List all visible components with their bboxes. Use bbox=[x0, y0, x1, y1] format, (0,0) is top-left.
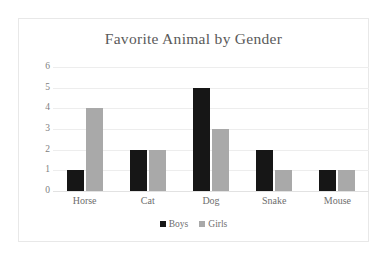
legend-label: Girls bbox=[208, 219, 227, 229]
x-tick-label-mouse: Mouse bbox=[306, 195, 369, 206]
y-tick-label: 5 bbox=[45, 83, 50, 93]
bar-group bbox=[116, 67, 179, 191]
x-axis-labels: HorseCatDogSnakeMouse bbox=[53, 195, 369, 206]
bar-girls-snake[interactable] bbox=[275, 170, 292, 191]
bar-girls-cat[interactable] bbox=[149, 150, 166, 191]
y-tick-label: 3 bbox=[45, 124, 50, 134]
bar-group bbox=[179, 67, 242, 191]
legend-label: Boys bbox=[169, 219, 189, 229]
y-axis: 0123456 bbox=[36, 67, 53, 191]
chart-frame: Favorite Animal by Gender 0123456 HorseC… bbox=[18, 18, 369, 242]
y-tick-label: 6 bbox=[45, 62, 50, 72]
x-tick-label-dog: Dog bbox=[179, 195, 242, 206]
x-tick-label-snake: Snake bbox=[243, 195, 306, 206]
bar-boys-dog[interactable] bbox=[193, 88, 210, 191]
axis-baseline bbox=[53, 191, 369, 192]
y-tick-label: 1 bbox=[45, 166, 50, 176]
bar-group bbox=[243, 67, 306, 191]
legend-item-boys[interactable]: Boys bbox=[160, 219, 189, 229]
bars-layer bbox=[53, 67, 369, 191]
bar-boys-snake[interactable] bbox=[256, 150, 273, 191]
bar-boys-cat[interactable] bbox=[130, 150, 147, 191]
x-tick-label-cat: Cat bbox=[116, 195, 179, 206]
y-tick-label: 0 bbox=[45, 186, 50, 196]
legend-swatch-icon bbox=[199, 221, 205, 227]
legend-item-girls[interactable]: Girls bbox=[199, 219, 227, 229]
y-tick-label: 4 bbox=[45, 104, 50, 114]
chart-title: Favorite Animal by Gender bbox=[19, 30, 368, 48]
plot-area: 0123456 bbox=[36, 67, 369, 191]
bar-girls-dog[interactable] bbox=[212, 129, 229, 191]
bar-girls-mouse[interactable] bbox=[338, 170, 355, 191]
bar-group bbox=[53, 67, 116, 191]
legend-swatch-icon bbox=[160, 221, 166, 227]
chart-legend: BoysGirls bbox=[19, 219, 368, 229]
bar-girls-horse[interactable] bbox=[86, 108, 103, 191]
bar-group bbox=[306, 67, 369, 191]
x-tick-label-horse: Horse bbox=[53, 195, 116, 206]
y-tick-label: 2 bbox=[45, 145, 50, 155]
bar-boys-mouse[interactable] bbox=[319, 170, 336, 191]
bar-boys-horse[interactable] bbox=[67, 170, 84, 191]
